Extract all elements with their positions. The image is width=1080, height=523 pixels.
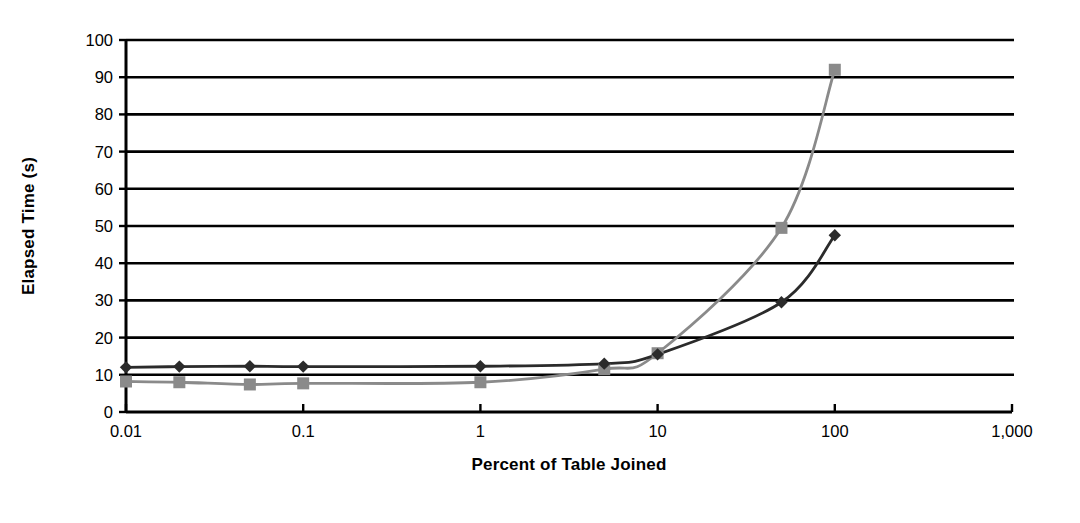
data-point-square <box>120 375 132 387</box>
elapsed-time-line-chart: 0102030405060708090100 0.010.11101001,00… <box>0 0 1080 523</box>
x-tick-label: 1 <box>476 422 485 440</box>
y-tick-label: 100 <box>85 31 113 49</box>
data-point-square <box>173 376 185 388</box>
y-tick-label: 50 <box>95 217 113 235</box>
x-tick-label: 0.1 <box>292 422 315 440</box>
y-tick-label: 70 <box>95 143 113 161</box>
y-tick-label: 20 <box>95 329 113 347</box>
data-point-square <box>474 376 486 388</box>
y-tick-label: 30 <box>95 291 113 309</box>
y-tick-label: 0 <box>104 403 113 421</box>
data-point-square <box>775 222 787 234</box>
data-point-square <box>297 377 309 389</box>
chart-container: 0102030405060708090100 0.010.11101001,00… <box>0 0 1080 523</box>
x-tick-label: 10 <box>648 422 666 440</box>
data-point-square <box>244 378 256 390</box>
y-axis-title: Elapsed Time (s) <box>19 157 38 295</box>
x-tick-label: 0.01 <box>110 422 142 440</box>
x-tick-label: 100 <box>821 422 849 440</box>
y-tick-label: 90 <box>95 68 113 86</box>
y-tick-label: 40 <box>95 254 113 272</box>
y-tick-label: 80 <box>95 105 113 123</box>
data-point-square <box>829 64 841 76</box>
y-tick-label: 10 <box>95 366 113 384</box>
x-tick-label: 1,000 <box>991 422 1032 440</box>
x-axis-title: Percent of Table Joined <box>471 455 666 474</box>
y-tick-label: 60 <box>95 180 113 198</box>
